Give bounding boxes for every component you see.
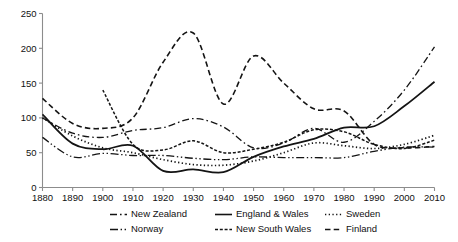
x-tick-label: 1920 [153, 192, 174, 203]
x-tick-label: 2010 [424, 192, 445, 203]
x-tick-label: 1970 [303, 192, 324, 203]
x-axis: 1880189019001910192019301940195019601970… [32, 188, 445, 204]
legend-item-sweden[interactable]: Sweden [325, 208, 380, 219]
y-tick-label: 150 [21, 78, 37, 89]
x-tick-label: 1980 [333, 192, 354, 203]
chart-legend: New ZealandEngland & WalesSwedenNorwayNe… [110, 208, 380, 234]
legend-label-england-wales: England & Wales [236, 208, 309, 219]
x-tick-label: 1990 [364, 192, 385, 203]
series-line-finland [43, 32, 435, 149]
x-tick-label: 1900 [92, 192, 113, 203]
series-lines [43, 32, 435, 173]
y-tick-label: 200 [21, 43, 37, 54]
x-tick-label: 1890 [62, 192, 83, 203]
y-tick-label: 50 [26, 147, 37, 158]
legend-label-finland: Finland [346, 223, 377, 234]
y-tick-label: 250 [21, 8, 37, 19]
legend-item-norway[interactable]: Norway [110, 223, 163, 234]
legend-item-england-wales[interactable]: England & Wales [215, 208, 309, 219]
x-tick-label: 1940 [213, 192, 234, 203]
legend-label-new-zealand: New Zealand [131, 208, 187, 219]
y-tick-label: 100 [21, 112, 37, 123]
x-tick-label: 1930 [183, 192, 204, 203]
y-axis: 050100150200250 [21, 8, 43, 193]
x-tick-label: 1910 [122, 192, 143, 203]
legend-item-new-south-wales[interactable]: New South Wales [215, 223, 311, 234]
series-line-england-wales [43, 82, 435, 173]
legend-item-new-zealand[interactable]: New Zealand [110, 208, 187, 219]
x-tick-label: 1880 [32, 192, 53, 203]
legend-item-finland[interactable]: Finland [325, 223, 377, 234]
series-line-new-zealand [43, 47, 435, 149]
chart-canvas: 050100150200250 188018901900191019201930… [0, 0, 458, 242]
legend-label-norway: Norway [131, 223, 163, 234]
legend-label-sweden: Sweden [346, 208, 380, 219]
legend-label-new-south-wales: New South Wales [236, 223, 311, 234]
x-tick-label: 1960 [273, 192, 294, 203]
x-tick-label: 2000 [394, 192, 415, 203]
line-chart-figure: 050100150200250 188018901900191019201930… [0, 0, 458, 242]
x-tick-label: 1950 [243, 192, 264, 203]
